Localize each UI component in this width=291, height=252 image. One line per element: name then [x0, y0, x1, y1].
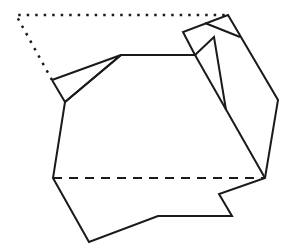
folded-shape-diagram [0, 0, 291, 252]
right-inner-edge [195, 55, 265, 178]
main-outline [53, 15, 278, 242]
unfolded-flap-outline [16, 15, 228, 80]
dotted-edges [16, 15, 228, 80]
solid-edges [52, 15, 278, 242]
inner-triangle [195, 37, 226, 110]
left-flap [52, 55, 121, 102]
